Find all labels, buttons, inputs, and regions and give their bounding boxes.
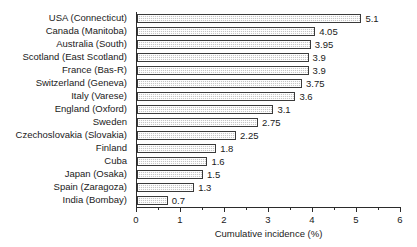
bar [137, 79, 302, 88]
bar [137, 157, 207, 166]
bar [137, 196, 168, 205]
bar-value-label: 3.75 [306, 78, 325, 89]
x-axis-title: Cumulative incidence (%) [136, 228, 401, 239]
category-label: India (Bombay) [0, 195, 127, 205]
x-tick-minor [246, 208, 247, 210]
bar-value-label: 0.7 [172, 195, 185, 206]
x-tick-minor [334, 208, 335, 210]
category-label: France (Bas-R) [0, 65, 127, 75]
x-tick-label: 0 [126, 214, 146, 225]
bar [137, 92, 295, 101]
x-tick-label: 2 [214, 214, 234, 225]
category-label: Czechoslovakia (Slovakia) [0, 130, 127, 140]
bar-value-label: 4.05 [319, 26, 338, 37]
x-tick-label: 6 [390, 214, 410, 225]
bar-value-label: 1.8 [220, 143, 233, 154]
bar-value-label: 1.3 [198, 182, 211, 193]
bar-value-label: 3.95 [315, 39, 334, 50]
category-label: Cuba [0, 156, 127, 166]
x-tick-minor [202, 208, 203, 210]
x-tick-label: 3 [258, 214, 278, 225]
category-label: Australia (South) [0, 39, 127, 49]
bar [137, 118, 258, 127]
bar-value-label: 1.6 [211, 156, 224, 167]
bar-row: 3.6 [137, 92, 401, 101]
bar-row: 0.7 [137, 196, 401, 205]
category-label: Japan (Osaka) [0, 169, 127, 179]
bar-row: 3.1 [137, 105, 401, 114]
bar-value-label: 3.6 [299, 91, 312, 102]
x-tick-major [268, 208, 269, 212]
x-tick-minor [158, 208, 159, 210]
bar [137, 183, 194, 192]
bar-row: 2.25 [137, 131, 401, 140]
bar-value-label: 5.1 [365, 13, 378, 24]
bar-row: 3.75 [137, 79, 401, 88]
bar-value-label: 2.75 [262, 117, 281, 128]
category-label: USA (Connecticut) [0, 13, 127, 23]
bar [137, 144, 216, 153]
x-tick-major [224, 208, 225, 212]
x-tick-minor [378, 208, 379, 210]
bar [137, 170, 203, 179]
bar-value-label: 3.9 [313, 65, 326, 76]
bar [137, 27, 315, 36]
bar-value-label: 1.5 [207, 169, 220, 180]
bar-row: 1.5 [137, 170, 401, 179]
plot-area: 5.14.053.953.93.93.753.63.12.752.251.81.… [136, 12, 401, 207]
category-label: Spain (Zaragoza) [0, 182, 127, 192]
x-tick-major [356, 208, 357, 212]
bar [137, 66, 309, 75]
category-label: Italy (Varese) [0, 91, 127, 101]
category-axis: USA (Connecticut)Canada (Manitoba)Austra… [0, 12, 131, 207]
bar [137, 131, 236, 140]
bar-row: 1.8 [137, 144, 401, 153]
bar-row: 2.75 [137, 118, 401, 127]
category-label: Finland [0, 143, 127, 153]
bar [137, 40, 311, 49]
bar-chart: USA (Connecticut)Canada (Manitoba)Austra… [0, 0, 417, 247]
x-tick-major [136, 208, 137, 212]
bar-row: 3.9 [137, 66, 401, 75]
category-label: Scotland (East Scotland) [0, 52, 127, 62]
bar-row: 3.9 [137, 53, 401, 62]
bar-row: 3.95 [137, 40, 401, 49]
bar-value-label: 2.25 [240, 130, 259, 141]
bar [137, 14, 361, 23]
bar [137, 105, 273, 114]
x-tick-label: 5 [346, 214, 366, 225]
bar-value-label: 3.9 [313, 52, 326, 63]
category-label: Sweden [0, 117, 127, 127]
bar-row: 5.1 [137, 14, 401, 23]
bar-row: 4.05 [137, 27, 401, 36]
bar-value-label: 3.1 [277, 104, 290, 115]
x-tick-label: 1 [170, 214, 190, 225]
x-tick-major [400, 208, 401, 212]
bar [137, 53, 309, 62]
x-tick-label: 4 [302, 214, 322, 225]
category-label: Switzerland (Geneva) [0, 78, 127, 88]
bar-row: 1.3 [137, 183, 401, 192]
category-label: Canada (Manitoba) [0, 26, 127, 36]
x-tick-minor [290, 208, 291, 210]
x-tick-major [180, 208, 181, 212]
category-label: England (Oxford) [0, 104, 127, 114]
bar-row: 1.6 [137, 157, 401, 166]
x-tick-major [312, 208, 313, 212]
